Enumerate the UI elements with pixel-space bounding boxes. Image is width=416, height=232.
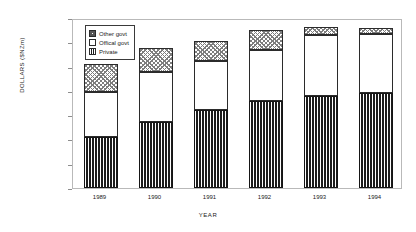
legend-item: Other govt — [89, 29, 129, 38]
bar-stack — [194, 18, 228, 188]
bar-segment-other-govt — [304, 27, 338, 35]
bar-segment-private — [84, 137, 118, 188]
bar-segment-official-govt — [139, 72, 173, 122]
bar-stack — [139, 18, 173, 188]
x-tick-label: 1993 — [290, 194, 350, 200]
x-tick-label: 1989 — [70, 194, 130, 200]
bar-segment-official-govt — [194, 61, 228, 110]
bar-segment-other-govt — [194, 41, 228, 61]
bar-segment-other-govt — [359, 28, 393, 35]
legend-swatch-icon — [89, 30, 96, 37]
legend-label: Private — [99, 49, 118, 55]
x-axis-title: YEAR — [0, 212, 416, 218]
bar-stack — [359, 18, 393, 188]
x-tick-label: 1991 — [180, 194, 240, 200]
x-tick-label: 1992 — [235, 194, 295, 200]
bar-segment-private — [304, 96, 338, 188]
legend-item: Private — [89, 47, 129, 56]
bar-segment-private — [139, 122, 173, 188]
legend-label: Offical govt — [99, 40, 129, 46]
bar-stack — [304, 18, 338, 188]
bar-segment-official-govt — [304, 35, 338, 96]
legend-swatch-icon — [89, 48, 96, 55]
legend-swatch-icon — [89, 39, 96, 46]
legend-label: Other govt — [99, 31, 127, 37]
bar-segment-private — [359, 93, 393, 188]
chart-legend: Other govtOffical govtPrivate — [85, 25, 135, 60]
bar-segment-official-govt — [84, 92, 118, 137]
bar-segment-official-govt — [359, 34, 393, 92]
bar-segment-other-govt — [84, 64, 118, 91]
y-tick-mark — [68, 189, 72, 190]
bar-segment-other-govt — [249, 30, 283, 49]
chart-figure: DOLLARS ($NZm) YEAR 01000020000300004000… — [0, 0, 416, 232]
bar-segment-private — [249, 101, 283, 188]
bar-segment-official-govt — [249, 50, 283, 101]
bar-stack — [249, 18, 283, 188]
x-tick-label: 1990 — [125, 194, 185, 200]
y-axis-title: DOLLARS ($NZm) — [19, 5, 25, 125]
x-tick-label: 1994 — [345, 194, 405, 200]
legend-item: Offical govt — [89, 38, 129, 47]
bar-segment-private — [194, 110, 228, 188]
bar-segment-other-govt — [139, 48, 173, 72]
